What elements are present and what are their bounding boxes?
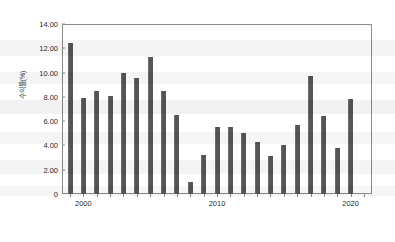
x-tick-mark (297, 194, 298, 197)
y-tick-label: 8.00 (24, 92, 58, 101)
y-tick-label: 14.00 (24, 20, 58, 29)
bar (268, 156, 273, 194)
bar (348, 99, 353, 194)
x-tick-mark (164, 194, 165, 197)
x-tick-mark (257, 194, 258, 197)
bar (68, 43, 73, 194)
bar (321, 116, 326, 194)
bar (94, 91, 99, 194)
y-tick-label: 10.00 (24, 68, 58, 77)
x-tick-mark (337, 194, 338, 197)
bar (108, 96, 113, 194)
x-tick-label: 2010 (209, 199, 226, 208)
x-tick-mark (230, 194, 231, 197)
bar (148, 57, 153, 194)
x-tick-mark (244, 194, 245, 197)
bar (228, 127, 233, 194)
y-tick-mark (62, 121, 65, 122)
y-tick-label: 6.00 (24, 117, 58, 126)
x-tick-mark (97, 194, 98, 197)
y-tick-mark (62, 145, 65, 146)
bar (161, 91, 166, 194)
x-tick-mark (177, 194, 178, 197)
x-tick-mark (137, 194, 138, 197)
x-tick-mark (70, 194, 71, 197)
bar (188, 182, 193, 194)
y-tick-mark (62, 169, 65, 170)
bar (215, 127, 220, 194)
y-tick-mark (62, 48, 65, 49)
x-tick-mark (204, 194, 205, 197)
x-tick-label: 2000 (75, 199, 92, 208)
x-axis-labels: 200020102020 (62, 199, 372, 213)
bar-chart-figure: 수익률(%) 14.0012.0010.008.006.004.002.000 … (0, 0, 395, 242)
bar (295, 125, 300, 194)
y-tick-label: 12.00 (24, 44, 58, 53)
x-tick-mark (190, 194, 191, 197)
bar (174, 115, 179, 194)
y-tick-label: 0 (24, 190, 58, 199)
x-axis-ticks (62, 194, 372, 198)
x-tick-mark (123, 194, 124, 197)
x-tick-mark (83, 194, 84, 197)
x-tick-mark (284, 194, 285, 197)
x-tick-mark (351, 194, 352, 197)
y-tick-mark (62, 96, 65, 97)
bar (201, 155, 206, 194)
bar (241, 133, 246, 194)
bar (121, 73, 126, 194)
y-tick-mark (62, 24, 65, 25)
bar (281, 145, 286, 194)
y-tick-label: 4.00 (24, 141, 58, 150)
x-tick-mark (311, 194, 312, 197)
x-tick-mark (150, 194, 151, 197)
bar (81, 98, 86, 194)
x-tick-mark (324, 194, 325, 197)
bar (134, 78, 139, 194)
x-tick-mark (217, 194, 218, 197)
y-axis-ticks: 14.0012.0010.008.006.004.002.000 (22, 24, 58, 194)
x-tick-label: 2020 (342, 199, 359, 208)
y-tick-label: 2.00 (24, 165, 58, 174)
bar (308, 76, 313, 194)
bar-series (62, 24, 372, 194)
bar (335, 148, 340, 194)
x-tick-mark (270, 194, 271, 197)
y-tick-mark (62, 72, 65, 73)
x-tick-mark (364, 194, 365, 197)
bar (255, 142, 260, 194)
x-tick-mark (110, 194, 111, 197)
